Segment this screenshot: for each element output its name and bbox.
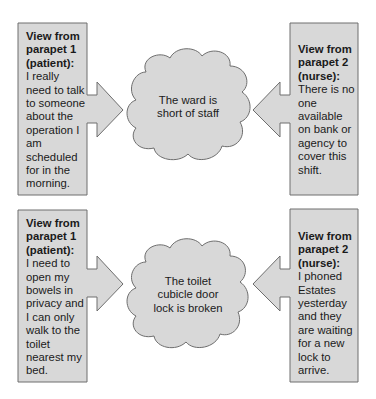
patient-view-text-2: View from parapet 1 (patient): I need to… [26,217,86,378]
patient-view-body-2: I need to open my bowels in privacy and … [26,257,86,378]
nurse-view-heading-2: View from parapet 2 (nurse): [298,230,358,270]
nurse-view-body-1: There is no one available on bank or age… [298,83,358,177]
patient-view-heading-2: View from parapet 1 (patient): [26,217,86,257]
nurse-view-text-2: View from parapet 2 (nurse): I phoned Es… [298,230,358,377]
nurse-view-text-1: View from parapet 2 (nurse): There is no… [298,43,358,177]
nurse-view-heading-1: View from parapet 2 (nurse): [298,43,358,83]
patient-view-text-1: View from parapet 1 (patient): I really … [26,30,86,191]
issue-cloud-text-2: The toilet cubicle door lock is broken [150,275,226,315]
issue-cloud-text-1: The ward is short of staff [150,94,226,121]
patient-view-body-1: I really need to talk to someone about t… [26,70,86,191]
nurse-view-body-2: I phoned Estates yesterday and they are … [298,270,358,377]
patient-view-heading-1: View from parapet 1 (patient): [26,30,86,70]
